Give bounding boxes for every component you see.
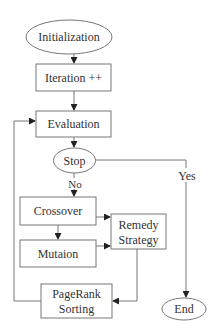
node-end: End: [162, 298, 206, 320]
node-pagerank-label-line1: PageRank: [52, 287, 101, 301]
edge-label-no: No: [68, 178, 82, 190]
node-crossover: Crossover: [20, 197, 96, 225]
node-end-label: End: [174, 302, 193, 316]
node-remedy-label-line2: Strategy: [119, 233, 159, 247]
node-pagerank-label-line2: Sorting: [59, 302, 94, 316]
node-mutation: Mutaion: [20, 240, 96, 267]
node-stop-label: Stop: [63, 154, 85, 168]
edge-label-yes: Yes: [178, 169, 196, 183]
node-evaluation-label: Evaluation: [48, 117, 100, 131]
edge-stop-yes-end: [95, 160, 186, 168]
node-mutation-label: Mutaion: [38, 247, 79, 261]
node-crossover-label: Crossover: [34, 204, 83, 218]
node-iteration-label: Iteration ++: [45, 71, 102, 85]
flowchart-canvas: Initialization Iteration ++ Evaluation S…: [0, 0, 213, 336]
edge-remedy-pagerank: [113, 249, 137, 301]
node-pagerank-sorting: PageRank Sorting: [41, 284, 112, 318]
node-iteration: Iteration ++: [36, 64, 111, 91]
node-stop: Stop: [54, 148, 96, 173]
node-evaluation: Evaluation: [36, 111, 111, 137]
node-initialization: Initialization: [26, 20, 112, 54]
node-remedy-strategy: Remedy Strategy: [111, 214, 166, 249]
node-initialization-label: Initialization: [38, 30, 99, 44]
node-remedy-label-line1: Remedy: [119, 218, 159, 232]
